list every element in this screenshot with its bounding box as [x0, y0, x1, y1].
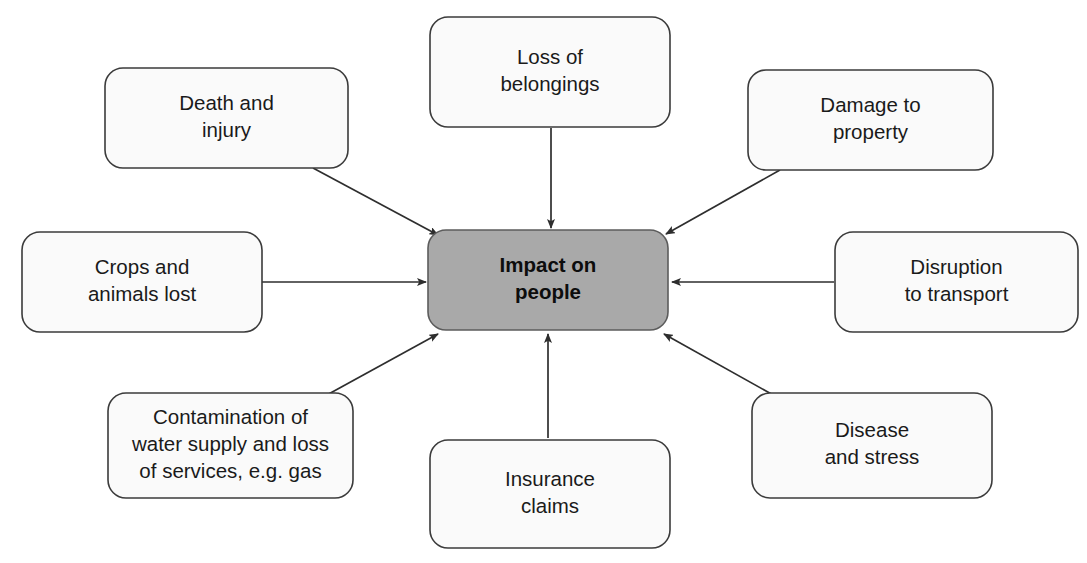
- node-center[interactable]: Impact onpeople: [428, 230, 668, 330]
- label-line: injury: [202, 118, 252, 141]
- label-line: Death and: [179, 91, 274, 114]
- arrow-disease-and-stress-to-center: [664, 334, 775, 396]
- node-contamination-of-water-supply[interactable]: Contamination ofwater supply and lossof …: [108, 393, 353, 498]
- label-line: Loss of: [517, 45, 583, 68]
- node-crops-and-animals-lost[interactable]: Crops andanimals lost: [22, 232, 262, 332]
- label-line: of services, e.g. gas: [139, 459, 321, 482]
- label-line: animals lost: [88, 282, 197, 305]
- label-line: property: [833, 120, 909, 143]
- arrow-damage-to-property-to-center: [666, 170, 780, 234]
- node-layer: Death andinjuryLoss ofbelongingsDamage t…: [22, 17, 1078, 548]
- impact-on-people-mind-map: Death andinjuryLoss ofbelongingsDamage t…: [0, 0, 1087, 563]
- label-line: claims: [521, 494, 579, 517]
- label-line: Disease: [835, 418, 909, 441]
- arrow-contamination-to-center: [325, 334, 438, 396]
- arrow-death-and-injury-to-center: [313, 168, 438, 235]
- node-disease-and-stress[interactable]: Diseaseand stress: [752, 393, 992, 498]
- label-line: belongings: [500, 72, 599, 95]
- label-line: people: [515, 280, 581, 303]
- label-line: Insurance: [505, 467, 595, 490]
- label-line: Disruption: [910, 255, 1002, 278]
- node-death-and-injury[interactable]: Death andinjury: [105, 68, 348, 168]
- diagram-canvas: Death andinjuryLoss ofbelongingsDamage t…: [0, 0, 1087, 563]
- node-disruption-to-transport[interactable]: Disruptionto transport: [835, 232, 1078, 332]
- label-line: to transport: [905, 282, 1009, 305]
- node-label-contamination-of-water-supply: Contamination ofwater supply and lossof …: [131, 405, 329, 482]
- node-loss-of-belongings[interactable]: Loss ofbelongings: [430, 17, 670, 127]
- label-line: water supply and loss: [131, 432, 329, 455]
- label-line: Crops and: [95, 255, 190, 278]
- label-line: Damage to: [820, 93, 920, 116]
- node-damage-to-property[interactable]: Damage toproperty: [748, 70, 993, 170]
- label-line: Impact on: [500, 253, 597, 276]
- label-line: Contamination of: [153, 405, 308, 428]
- label-line: and stress: [825, 445, 920, 468]
- node-insurance-claims[interactable]: Insuranceclaims: [430, 440, 670, 548]
